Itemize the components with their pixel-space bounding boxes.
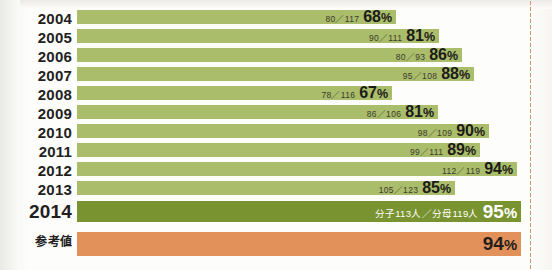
bar-percent-value: 67% [359, 84, 388, 102]
bar-fraction-label: 80／93 [396, 50, 425, 62]
percent-sign: % [474, 125, 485, 139]
bar-2014: 分子113人／分母119人95% [77, 201, 521, 222]
chart-row-2011: 201199／11189% [0, 143, 552, 157]
bar-percent-value: 81% [405, 103, 434, 121]
bar-percent-number: 68 [363, 8, 380, 25]
percent-sign: % [377, 87, 388, 101]
row-label-2012: 2012 [0, 162, 72, 180]
bar-chart-rows: 200480／11768%200590／11181%200680／9386%20… [0, 0, 552, 270]
bar-percent-value: 94% [483, 233, 517, 255]
bar-2004: 80／11768% [77, 10, 396, 24]
bar-percent-value: 90% [456, 122, 485, 140]
percent-sign: % [447, 49, 458, 63]
bar-percent-number: 95 [483, 201, 504, 222]
bar-2008: 78／11667% [77, 86, 392, 100]
bar-2005: 90／11181% [77, 29, 439, 43]
row-label-2006: 2006 [0, 48, 72, 66]
bar-2010: 98／10990% [77, 124, 489, 138]
bar-percent-number: 67 [359, 84, 376, 101]
percent-sign: % [504, 237, 517, 253]
bar-fraction-label: 99／111 [410, 145, 443, 157]
row-label-2010: 2010 [0, 124, 72, 142]
chart-row-2007: 200795／10888% [0, 67, 552, 81]
row-label-2011: 2011 [0, 143, 72, 161]
bar-fraction-label: 86／106 [367, 107, 401, 119]
percent-sign: % [381, 11, 392, 25]
chart-row-2008: 200878／11667% [0, 86, 552, 100]
percent-sign: % [465, 144, 476, 158]
bar-2006: 80／9386% [77, 48, 462, 62]
chart-row-2010: 201098／10990% [0, 124, 552, 138]
bar-percent-number: 88 [441, 65, 458, 82]
bar-fraction-label: 分子113人／分母119人 [375, 206, 479, 220]
percent-sign: % [504, 205, 517, 221]
chart-row-2014: 2014分子113人／分母119人95% [0, 201, 552, 222]
bar-percent-value: 68% [363, 8, 392, 26]
row-label-2004: 2004 [0, 10, 72, 28]
chart-row-reference: 参考値94% [0, 232, 552, 256]
chart-row-2005: 200590／11181% [0, 29, 552, 43]
bar-2009: 86／10681% [77, 105, 438, 119]
bar-2011: 99／11189% [77, 143, 480, 157]
bar-percent-number: 81 [405, 103, 422, 120]
row-label-2014: 2014 [0, 201, 72, 223]
row-label-2009: 2009 [0, 105, 72, 123]
bar-fraction-label: 98／109 [418, 126, 452, 138]
bar-fraction-label: 78／116 [321, 88, 355, 100]
percent-sign: % [424, 30, 435, 44]
bar-percent-number: 85 [422, 179, 439, 196]
bar-percent-number: 94 [483, 233, 504, 254]
vertical-dotted-rule [529, 0, 532, 270]
bar-percent-number: 81 [406, 27, 423, 44]
row-label-reference: 参考値 [0, 232, 72, 252]
bar-percent-number: 89 [447, 141, 464, 158]
row-label-2013: 2013 [0, 181, 72, 199]
bar-fraction-label: 80／117 [325, 12, 359, 24]
bar-percent-value: 88% [441, 65, 470, 83]
bar-fraction-label: 105／123 [379, 183, 418, 195]
percent-sign: % [440, 182, 451, 196]
bar-percent-value: 86% [429, 46, 458, 64]
bar-percent-number: 90 [456, 122, 473, 139]
bar-2012: 112／11994% [77, 162, 517, 176]
bar-percent-value: 94% [484, 160, 513, 178]
percent-sign: % [459, 68, 470, 82]
bar-percent-value: 89% [447, 141, 476, 159]
chart-row-2012: 2012112／11994% [0, 162, 552, 176]
bar-fraction-label: 95／108 [403, 69, 437, 81]
row-label-2008: 2008 [0, 86, 72, 104]
chart-row-2006: 200680／9386% [0, 48, 552, 62]
chart-row-2013: 2013105／12385% [0, 181, 552, 195]
percent-sign: % [423, 106, 434, 120]
row-label-2005: 2005 [0, 29, 72, 47]
bar-reference: 94% [77, 232, 521, 256]
bar-percent-value: 85% [422, 179, 451, 197]
chart-row-2009: 200986／10681% [0, 105, 552, 119]
bar-2013: 105／12385% [77, 181, 455, 195]
bar-2007: 95／10888% [77, 67, 474, 81]
bar-percent-number: 94 [484, 160, 501, 177]
percent-sign: % [502, 163, 513, 177]
bar-percent-value: 95% [483, 201, 517, 223]
row-label-2007: 2007 [0, 67, 72, 85]
bar-fraction-label: 90／111 [369, 31, 402, 43]
bar-fraction-label: 112／119 [442, 164, 480, 176]
chart-row-2004: 200480／11768% [0, 10, 552, 24]
bar-percent-number: 86 [429, 46, 446, 63]
bar-percent-value: 81% [406, 27, 435, 45]
